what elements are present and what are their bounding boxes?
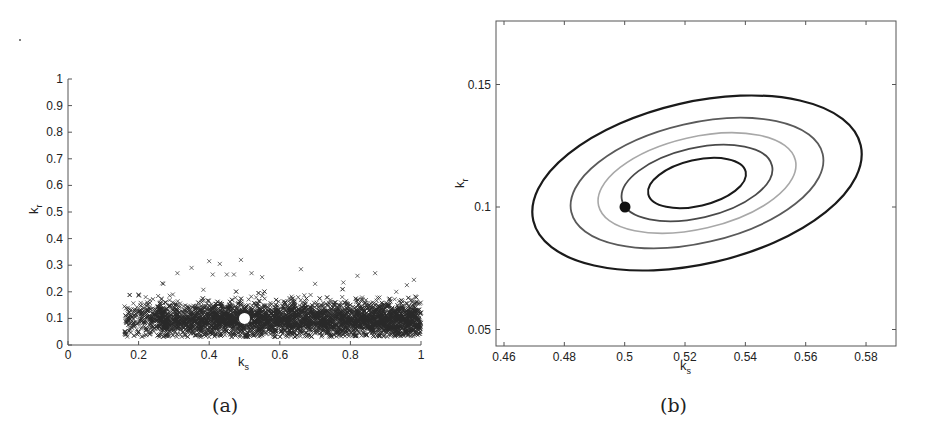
contour-level-2	[614, 132, 780, 235]
plot-b-y-tick-label: 0.1	[474, 200, 491, 214]
plot-a-y-tick-label: 0.8	[46, 125, 63, 139]
plot-b-y-tick-label: 0.15	[468, 78, 492, 92]
plot-a-true-value-marker	[239, 313, 250, 324]
contour-level-3	[588, 115, 806, 250]
plot-a-x-tick-label: 0.8	[342, 348, 359, 362]
plot-a-y-tick-label: 0.6	[46, 178, 63, 192]
plot-a-x-tick-label: 0.4	[201, 348, 218, 362]
figure: 00.20.40.60.8100.10.20.30.40.50.60.70.80…	[0, 0, 925, 444]
plot-b-true-value-marker	[620, 202, 631, 213]
plot-a-y-tick-label: 0	[56, 338, 63, 352]
plot-b-x-tick-label: 0.58	[854, 350, 878, 364]
plot-b-x-tick-label: 0.5	[616, 350, 633, 364]
plot-a-x-tick-label: 0.6	[271, 348, 288, 362]
plot-b-axes-box	[496, 21, 896, 346]
plot-a-x-tick-label: 0	[65, 348, 72, 362]
contour-level-5	[515, 66, 879, 299]
plot-a-scatter: 00.20.40.60.8100.10.20.30.40.50.60.70.80…	[26, 72, 425, 416]
plot-a-y-tick-label: 0.3	[46, 258, 63, 272]
plot-b-y-label: kr	[452, 179, 470, 189]
plot-a-y-tick-label: 1	[56, 72, 63, 86]
plot-a-x-label: ks	[238, 354, 250, 372]
plot-b-contour-set	[515, 66, 879, 299]
plot-b-ticks: 0.460.480.50.520.540.560.580.050.10.15	[468, 21, 896, 364]
plot-a-x-tick-label: 1	[418, 348, 425, 362]
plot-a-y-tick-label: 0.5	[46, 205, 63, 219]
plot-a-y-tick-label: 0.9	[46, 99, 63, 113]
plot-a-y-tick-label: 0.4	[46, 232, 63, 246]
plot-a-caption: (a)	[212, 394, 238, 416]
plot-a-y-label: kr	[26, 205, 44, 215]
plot-b-caption: (b)	[660, 394, 687, 416]
plot-b-y-tick-label: 0.05	[468, 323, 492, 337]
contour-level-4	[558, 96, 836, 271]
plot-a-y-tick-label: 0.7	[46, 152, 63, 166]
plot-a-x-markers	[122, 258, 422, 339]
plot-b-contour: 0.460.480.50.520.540.560.580.050.10.15 k…	[452, 21, 896, 416]
plot-b-x-tick-label: 0.56	[794, 350, 818, 364]
plot-a-x-tick-label: 0.2	[130, 348, 147, 362]
plot-b-x-tick-label: 0.54	[734, 350, 758, 364]
plot-b-x-tick-label: 0.46	[492, 350, 516, 364]
speck	[19, 39, 21, 41]
plot-a-y-tick-label: 0.2	[46, 285, 63, 299]
plot-b-x-tick-label: 0.48	[553, 350, 577, 364]
plot-a-sample-cloud	[122, 258, 422, 339]
plot-a-y-tick-label: 0.1	[46, 311, 63, 325]
